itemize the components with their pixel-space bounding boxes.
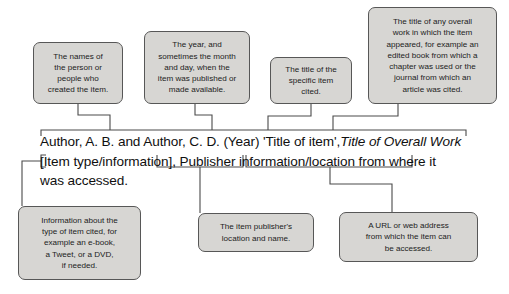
callout-item-title: The title of the specific item cited. <box>270 57 352 104</box>
connector-authors <box>78 104 110 124</box>
connector-overall-work <box>333 104 398 124</box>
connector-year <box>195 104 212 124</box>
citation-line-2: [Item type/information], Publisher infor… <box>40 152 472 172</box>
citation-line-3: was accessed. <box>40 171 472 191</box>
citation-line1-plain: Author, A. B. and Author, C. D. (Year) '… <box>40 134 340 149</box>
callout-overall-work: The title of any overall work in which t… <box>368 7 497 104</box>
callout-publisher: The item publisher's location and name. <box>198 213 314 252</box>
callout-year: The year, and sometimes the month and da… <box>144 31 250 104</box>
connector-item-type <box>22 161 41 206</box>
citation-breakdown-diagram: The names of the person or people who cr… <box>0 0 509 294</box>
citation-line1-italic: Title of Overall Work <box>340 134 461 149</box>
citation-line-1: Author, A. B. and Author, C. D. (Year) '… <box>40 132 472 152</box>
callout-authors: The names of the person or people who cr… <box>33 42 123 104</box>
callout-item-type: Information about the type of item cited… <box>18 206 141 280</box>
callout-url: A URL or web address from which the item… <box>339 212 478 262</box>
citation-text: Author, A. B. and Author, C. D. (Year) '… <box>40 132 472 191</box>
connector-item-title <box>268 104 311 124</box>
